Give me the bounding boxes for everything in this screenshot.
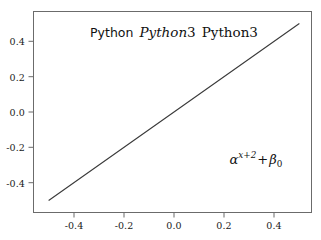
- math-alpha: α: [230, 152, 239, 167]
- title-part-italic: Python: [139, 24, 187, 40]
- title-part-italic-digit: 3: [187, 24, 196, 40]
- math-annotation: αx+2+β0: [230, 153, 283, 166]
- x-tick-label: 0.4: [266, 220, 281, 231]
- y-tick-label: -0.4: [0, 177, 25, 188]
- math-subscript: 0: [277, 159, 283, 169]
- chart-title: PythonPython3Python3: [90, 26, 258, 40]
- x-tick-label: -0.4: [65, 220, 84, 231]
- math-operator: +: [256, 152, 269, 167]
- title-part-serif: Python3: [202, 24, 258, 40]
- y-tick-label: 0.2: [0, 71, 25, 82]
- x-tick-label: -0.2: [115, 220, 134, 231]
- x-tick-label: 0.0: [166, 220, 181, 231]
- figure-canvas: 0.4 0.2 0.0 -0.2 -0.4 -0.4 -0.2 0.0 0.2 …: [0, 0, 321, 240]
- y-tick-label: 0.0: [0, 107, 25, 118]
- x-tick-label: 0.2: [216, 220, 231, 231]
- y-axis-ticks: [29, 41, 34, 182]
- math-superscript: x+2: [238, 150, 256, 160]
- y-tick-label: -0.2: [0, 142, 25, 153]
- x-axis-ticks: [74, 213, 274, 218]
- y-tick-label: 0.4: [0, 36, 25, 47]
- title-part-sans: Python: [90, 25, 133, 40]
